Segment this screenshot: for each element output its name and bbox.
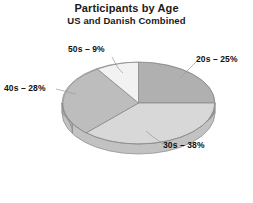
pie-label-50s: 50s – 9%	[68, 44, 105, 54]
pie-slice-20s[interactable]	[139, 62, 216, 103]
pie-label-20s: 20s – 25%	[196, 54, 238, 64]
pie-chart-figure: Participants by Age US and Danish Combin…	[0, 0, 253, 203]
pie-plot-area	[0, 0, 253, 203]
pie-svg	[0, 0, 253, 203]
pie-slices	[63, 62, 215, 144]
pie-label-30s: 30s – 38%	[163, 140, 205, 150]
pie-label-40s: 40s – 28%	[4, 83, 46, 93]
